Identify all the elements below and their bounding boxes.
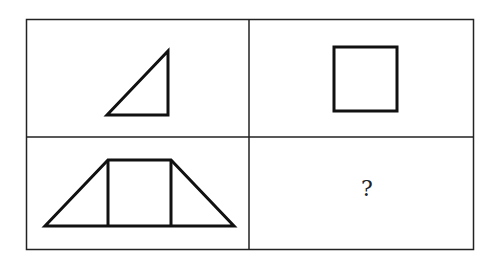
right-triangle-shape [107,51,168,115]
cell-top-left [107,51,168,115]
trapezoid-shape [45,160,234,226]
cell-top-right [334,47,397,111]
puzzle-grid [0,0,489,257]
cell-bottom-left [45,160,234,226]
grid-outer-border [27,20,474,250]
question-mark: ? [356,176,378,202]
square-shape [334,47,397,111]
